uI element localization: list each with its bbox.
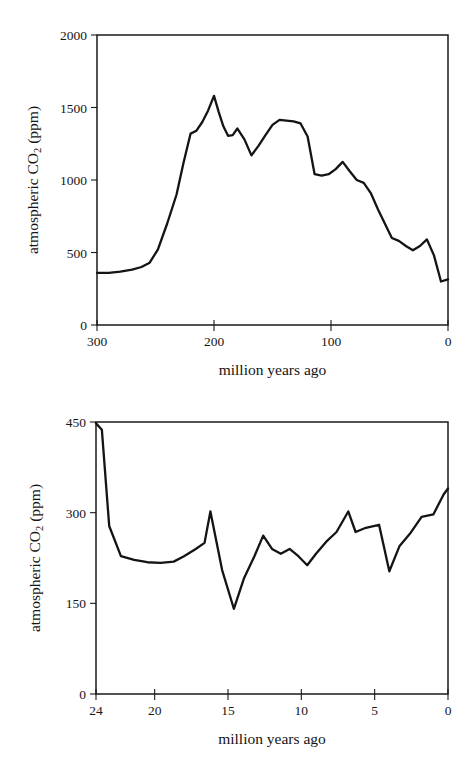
bottom-chart-svg: 01503004502420151050million years agoatm… [0,392,475,783]
x-axis-title: million years ago [219,361,327,378]
y-axis-tick-label: 300 [66,506,87,521]
x-axis-tick-label: 300 [87,334,108,349]
y-axis-title: atmospheric CO2 (ppm) [24,106,43,254]
x-axis-tick-label: 20 [148,703,162,718]
y-axis-tick-label: 1000 [60,173,87,188]
x-axis-tick-label: 15 [221,703,235,718]
x-axis-tick-label: 10 [295,703,309,718]
y-axis-tick-label: 500 [67,246,88,261]
data-series-line [97,96,448,282]
y-axis-tick-label: 0 [79,687,86,702]
y-axis-tick-label: 2000 [60,28,87,43]
y-axis-tick-label: 1500 [60,101,87,116]
top-chart-figure: 05001000150020003002001000million years … [0,0,475,392]
bottom-plot-area: 01503004502420151050million years agoatm… [26,415,452,747]
top-chart-svg: 05001000150020003002001000million years … [0,0,475,392]
x-axis-tick-label: 0 [445,703,452,718]
bottom-chart-figure: 01503004502420151050million years agoatm… [0,392,475,783]
plot-frame [97,35,448,325]
x-axis-tick-label: 5 [371,703,378,718]
data-series-line [96,423,448,609]
y-axis-title: atmospheric CO2 (ppm) [26,484,45,632]
x-axis-tick-label: 200 [204,334,225,349]
top-plot-area: 05001000150020003002001000million years … [24,28,452,378]
y-axis-tick-label: 0 [80,318,87,333]
x-axis-title: million years ago [218,730,326,747]
x-axis-tick-label: 0 [445,334,452,349]
y-axis-tick-label: 150 [66,596,87,611]
y-axis-tick-label: 450 [66,415,87,430]
x-axis-tick-label: 24 [89,703,103,718]
x-axis-tick-label: 100 [321,334,342,349]
